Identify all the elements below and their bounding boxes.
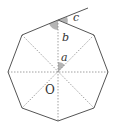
octagon-diagram: c b a O	[0, 0, 117, 128]
angle-label-c: c	[73, 11, 79, 24]
angle-label-a: a	[61, 51, 68, 64]
angle-label-b: b	[62, 31, 69, 44]
center-label-o: O	[45, 83, 55, 97]
